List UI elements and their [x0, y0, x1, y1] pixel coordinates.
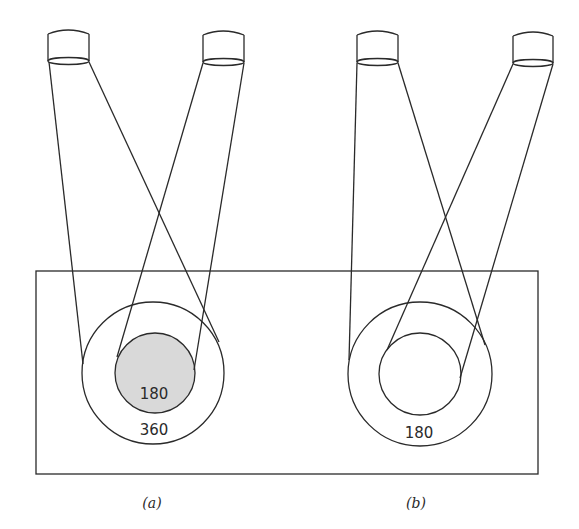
beam-line [49, 62, 83, 364]
panel-label-b: (b) [406, 495, 426, 511]
outer-value-a: 360 [140, 421, 169, 439]
dual-spotlight-coverage-diagram: 180 360 (a) 180 (b) [0, 0, 579, 529]
outer-value-b: 180 [405, 424, 434, 442]
beam-line [460, 64, 553, 378]
inner-circle-b [379, 333, 461, 415]
beam-line [387, 64, 513, 350]
cylinder-spotlight-icon [357, 31, 398, 66]
floor-rectangle [36, 271, 538, 474]
cylinder-spotlight-icon [48, 30, 89, 65]
beam-line [89, 62, 219, 342]
panel-label-a: (a) [142, 495, 161, 511]
beam-line [349, 63, 357, 360]
inner-value-a: 180 [140, 385, 169, 403]
cylinder-spotlight-icon [513, 32, 553, 67]
beam-line [194, 63, 244, 370]
cylinder-spotlight-icon [203, 31, 244, 66]
